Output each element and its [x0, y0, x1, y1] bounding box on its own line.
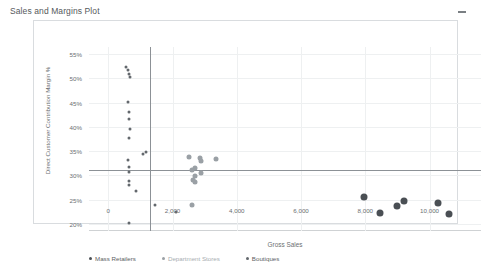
data-point[interactable] — [128, 165, 131, 168]
gridline-horizontal — [89, 78, 481, 79]
data-point[interactable] — [134, 189, 137, 192]
y-axis-title: Direct Customer Contribution Margin % — [44, 36, 51, 206]
legend-label: Department Stores — [168, 255, 220, 262]
y-axis-tick-label: 55% — [48, 51, 82, 58]
data-point[interactable] — [434, 199, 441, 206]
data-point[interactable] — [127, 179, 130, 182]
gridline-horizontal — [89, 54, 481, 55]
y-axis-tick-label: 25% — [48, 196, 82, 203]
reference-line-x — [150, 47, 151, 231]
legend-item[interactable]: Boutiques — [246, 255, 280, 262]
data-point[interactable] — [400, 198, 407, 205]
x-axis-title: Gross Sales — [89, 241, 481, 248]
legend-marker-icon — [89, 257, 92, 260]
x-axis-tick-label: 8,000 — [358, 207, 373, 214]
plot-area — [89, 47, 481, 231]
data-point[interactable] — [186, 154, 191, 159]
data-point[interactable] — [128, 136, 131, 139]
gridline-vertical — [301, 47, 302, 231]
data-point[interactable] — [127, 184, 130, 187]
data-point[interactable] — [445, 210, 452, 217]
data-point[interactable] — [376, 209, 383, 216]
data-point[interactable] — [145, 150, 148, 153]
data-point[interactable] — [128, 171, 131, 174]
gridline-horizontal — [89, 103, 481, 104]
legend-marker-icon — [162, 257, 165, 260]
data-point[interactable] — [153, 204, 156, 207]
x-axis-tick-label: 6,000 — [293, 207, 308, 214]
minimize-icon[interactable] — [458, 11, 466, 13]
data-point[interactable] — [128, 221, 131, 224]
legend-label: Boutiques — [252, 255, 280, 262]
legend-item[interactable]: Mass Retailers — [89, 255, 136, 262]
chart-legend: Mass RetailersDepartment StoresBoutiques — [89, 255, 279, 262]
data-point[interactable] — [198, 171, 203, 176]
x-axis-line — [89, 230, 481, 231]
legend-label: Mass Retailers — [95, 255, 136, 262]
data-point[interactable] — [127, 100, 130, 103]
gridline-horizontal — [89, 224, 481, 225]
data-point[interactable] — [126, 158, 129, 161]
legend-marker-icon — [246, 257, 249, 260]
x-axis-tick-label: 4,000 — [229, 207, 244, 214]
gridline-horizontal — [89, 151, 481, 152]
y-axis-tick-label: 50% — [48, 75, 82, 82]
gridline-vertical — [108, 47, 109, 231]
legend-item[interactable]: Department Stores — [162, 255, 220, 262]
gridline-vertical — [365, 47, 366, 231]
y-axis-tick-label: 30% — [48, 172, 82, 179]
data-point[interactable] — [189, 168, 194, 173]
data-point[interactable] — [394, 203, 401, 210]
gridline-horizontal — [89, 200, 481, 201]
data-point[interactable] — [129, 127, 132, 130]
data-point[interactable] — [127, 118, 130, 121]
y-axis-tick-label: 45% — [48, 99, 82, 106]
data-point[interactable] — [360, 193, 367, 200]
gridline-horizontal — [89, 175, 481, 176]
x-axis-tick-label: 10,000 — [420, 207, 439, 214]
y-axis-tick-label: 35% — [48, 148, 82, 155]
data-point[interactable] — [129, 76, 132, 79]
x-axis-tick-label: 2,000 — [165, 207, 180, 214]
data-point[interactable] — [128, 111, 131, 114]
page-title: Sales and Margins Plot — [10, 6, 100, 16]
reference-line-y — [89, 170, 481, 171]
gridline-vertical — [237, 47, 238, 231]
gridline-vertical — [173, 47, 174, 231]
data-point[interactable] — [213, 156, 218, 161]
plot-container: Gross Sales Direct Customer Contribution… — [33, 20, 458, 224]
data-point[interactable] — [189, 202, 194, 207]
data-point[interactable] — [193, 180, 198, 185]
gridline-vertical — [430, 47, 431, 231]
data-point[interactable] — [199, 159, 204, 164]
y-axis-tick-label: 20% — [48, 220, 82, 227]
y-axis-tick-label: 40% — [48, 123, 82, 130]
x-axis-tick-label: 0 — [107, 207, 110, 214]
gridline-horizontal — [89, 127, 481, 128]
